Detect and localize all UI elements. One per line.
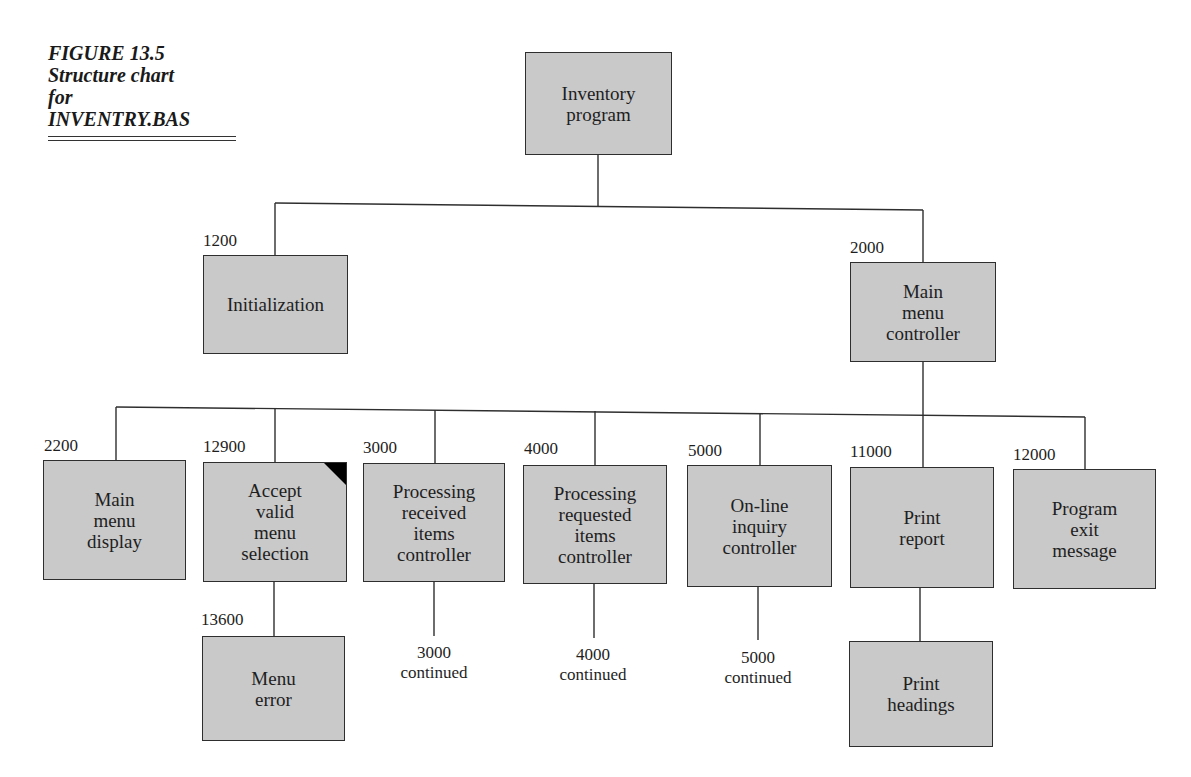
node-label: Main menu display xyxy=(87,489,142,552)
node-label: Processing received items controller xyxy=(393,481,475,565)
node-menu-error: Menu error xyxy=(202,636,345,741)
module-number-13600: 13600 xyxy=(201,611,244,629)
node-label: Main menu controller xyxy=(886,281,960,344)
node-on-line-inquiry-controller: On-line inquiry controller xyxy=(687,465,832,587)
node-label: Print report xyxy=(899,507,944,549)
node-print-headings: Print headings xyxy=(849,641,993,747)
module-number-3000: 3000 xyxy=(363,439,397,457)
node-initialization: Initialization xyxy=(203,255,348,354)
node-inventory-program: Inventory program xyxy=(525,52,672,155)
library-module-flag-icon xyxy=(324,463,346,485)
node-program-exit-message: Program exit message xyxy=(1013,469,1156,589)
node-processing-requested-items-controller: Processing requested items controller xyxy=(523,465,667,584)
node-label: Menu error xyxy=(251,668,295,710)
module-number-12000: 12000 xyxy=(1013,446,1056,464)
node-label: Program exit message xyxy=(1052,498,1117,561)
node-label: Initialization xyxy=(227,294,324,315)
node-label: Processing requested items controller xyxy=(554,483,636,567)
node-label: Accept valid menu selection xyxy=(241,480,309,564)
node-processing-received-items-controller: Processing received items controller xyxy=(363,463,505,582)
node-label: Print headings xyxy=(887,673,955,715)
module-number-12900: 12900 xyxy=(203,438,246,456)
node-main-menu-controller: Main menu controller xyxy=(850,262,996,362)
module-number-2000: 2000 xyxy=(850,239,884,257)
module-number-5000: 5000 xyxy=(688,442,722,460)
node-print-report: Print report xyxy=(850,467,994,588)
node-main-menu-display: Main menu display xyxy=(43,460,186,580)
module-number-4000: 4000 xyxy=(524,440,558,458)
module-number-11000: 11000 xyxy=(850,443,892,461)
node-label: Inventory program xyxy=(562,83,636,125)
module-number-2200: 2200 xyxy=(44,437,78,455)
continuation-3000: 3000 continued xyxy=(374,643,494,683)
continuation-5000: 5000 continued xyxy=(698,648,818,688)
continuation-4000: 4000 continued xyxy=(533,645,653,685)
node-accept-valid-menu-selection: Accept valid menu selection xyxy=(203,462,347,582)
module-number-1200: 1200 xyxy=(203,232,237,250)
node-label: On-line inquiry controller xyxy=(723,495,797,558)
